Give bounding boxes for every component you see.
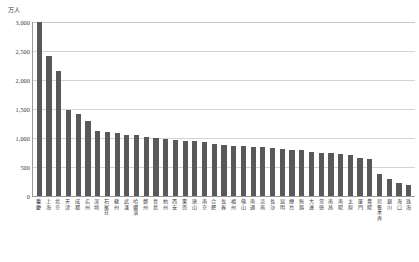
bar-slot (83, 22, 93, 196)
bar-slot (258, 22, 268, 196)
bar-slot (297, 22, 307, 196)
bar (319, 153, 324, 197)
bar-slot (307, 22, 317, 196)
bar (387, 179, 392, 196)
x-axis-tick-label: 済南 (260, 199, 266, 259)
x-axis-tick-label: 北京 (55, 199, 61, 259)
bar (95, 131, 100, 196)
x-axis-tick-label: 東莞 (182, 199, 188, 259)
x-label-slot: 無錫 (297, 199, 307, 259)
x-axis-tick-label: 成都 (75, 199, 81, 259)
bar-series (33, 22, 415, 196)
x-label-slot: 昆明 (277, 199, 287, 259)
x-label-slot: 南通 (248, 199, 258, 259)
x-label-slot: 厦門 (355, 199, 365, 259)
x-axis-tick-label: 重慶 (36, 199, 42, 259)
y-axis-tick-label: 2,500 (16, 48, 30, 55)
x-label-slot: 長沙 (268, 199, 278, 259)
x-label-slot: 蘇州 (112, 199, 122, 259)
bar-slot (384, 22, 394, 196)
x-axis-tick-label: 南昌 (328, 199, 334, 259)
bar-slot (229, 22, 239, 196)
bar-slot (190, 22, 200, 196)
x-label-slot: 常徳 (316, 199, 326, 259)
bar-slot (326, 22, 336, 196)
bar (163, 139, 168, 196)
x-axis-tick-label: 哈爾濱 (133, 199, 139, 259)
bar-slot (64, 22, 74, 196)
x-label-slot: 済南 (258, 199, 268, 259)
x-axis-tick-label: 烏魯木斉 (377, 199, 383, 259)
bar (134, 135, 139, 196)
x-label-slot: 上海 (43, 199, 53, 259)
bar-slot (200, 22, 210, 196)
bar-slot (375, 22, 385, 196)
bar (241, 146, 246, 196)
x-axis-tick-label: 深圳 (94, 199, 100, 259)
x-label-slot: 福州 (229, 199, 239, 259)
x-axis-tick-label: 武漢 (123, 199, 129, 259)
bar (260, 147, 265, 196)
bar-slot (355, 22, 365, 196)
bar (85, 121, 90, 196)
bar-slot (239, 22, 249, 196)
bar-slot (141, 22, 151, 196)
bar-slot (219, 22, 229, 196)
x-axis-tick-label: 広州 (84, 199, 90, 259)
x-axis-tick-label: 南陽 (338, 199, 344, 259)
bar (309, 152, 314, 196)
bar (144, 137, 149, 196)
bar-slot (287, 22, 297, 196)
x-label-slot: 東莞 (180, 199, 190, 259)
bar (406, 185, 411, 196)
bar-slot (73, 22, 83, 196)
y-axis-tick-label: 3,000 (16, 19, 30, 26)
bar-slot (268, 22, 278, 196)
x-label-slot: 大連 (307, 199, 317, 259)
bar-slot (209, 22, 219, 196)
bar (338, 154, 343, 196)
x-axis-tick-label: 唐山 (192, 199, 198, 259)
x-axis-tick-label: 煙台 (289, 199, 295, 259)
x-label-slot: 珠海 (404, 199, 414, 259)
x-label-slot: 太原 (346, 199, 356, 259)
x-axis-tick-label: 鄭州 (143, 199, 149, 259)
x-axis-tick-label: 常徳 (318, 199, 324, 259)
bar-slot (336, 22, 346, 196)
bar (105, 132, 110, 196)
x-label-slot: 煙台 (287, 199, 297, 259)
x-axis-tick-label: 珠海 (406, 199, 412, 259)
bar-slot (171, 22, 181, 196)
bar-slot (277, 22, 287, 196)
plot-area: 3,0002,5002,0001,5001,0005000 (32, 22, 415, 197)
x-label-slot: 成都 (73, 199, 83, 259)
bar-slot (132, 22, 142, 196)
bar (396, 183, 401, 196)
x-label-slot: 烏魯木斉 (375, 199, 385, 259)
x-label-slot: 合肥 (209, 199, 219, 259)
bar (37, 22, 42, 196)
bar (221, 145, 226, 196)
bar-slot (112, 22, 122, 196)
x-label-slot: 哈爾濱 (131, 199, 141, 259)
x-label-slot: 銀川 (385, 199, 395, 259)
bar (66, 110, 71, 196)
x-axis-tick-label: 合肥 (211, 199, 217, 259)
bar (270, 148, 275, 196)
x-axis-tick-label: 長沙 (270, 199, 276, 259)
x-label-slot: 北京 (53, 199, 63, 259)
bar-slot (44, 22, 54, 196)
bar-slot (316, 22, 326, 196)
x-axis-tick-label: 佛山 (240, 199, 246, 259)
y-axis-tick-label: 2,000 (16, 77, 30, 84)
x-axis-tick-label: 上海 (45, 199, 51, 259)
bar-slot (248, 22, 258, 196)
x-axis-tick-labels: 重慶上海北京天津成都広州深圳石家荘蘇州武漢哈爾濱鄭州青島杭州西安東莞唐山南京合肥… (32, 199, 415, 259)
bar (192, 141, 197, 196)
x-axis-tick-label: 大連 (309, 199, 315, 259)
bar (46, 56, 51, 196)
bar-slot (180, 22, 190, 196)
bar (367, 159, 372, 196)
x-label-slot: 武漢 (121, 199, 131, 259)
bar-slot (161, 22, 171, 196)
